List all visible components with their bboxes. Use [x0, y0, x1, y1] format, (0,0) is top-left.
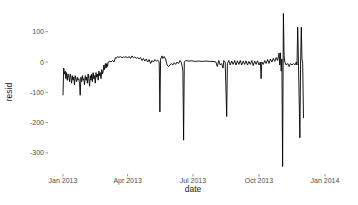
- x-tick-label: Jan 2013: [49, 177, 78, 184]
- y-tick-label: -100: [30, 89, 44, 96]
- resid-line-chart: 1000-100-200-300 Jan 2013Apr 2013Jul 201…: [0, 0, 358, 205]
- chart-background: [0, 0, 358, 205]
- y-tick-label: -200: [30, 119, 44, 126]
- x-tick-label: Jan 2014: [311, 177, 340, 184]
- x-tick-label: Apr 2013: [113, 177, 142, 185]
- y-tick-label: 0: [40, 59, 44, 66]
- x-axis-title: date: [185, 184, 202, 194]
- x-tick-label: Jul 2013: [180, 177, 207, 184]
- x-tick-label: Oct 2013: [245, 177, 274, 184]
- y-tick-label: 100: [32, 28, 44, 35]
- y-axis-title: resid: [4, 83, 14, 102]
- y-tick-label: -300: [30, 149, 44, 156]
